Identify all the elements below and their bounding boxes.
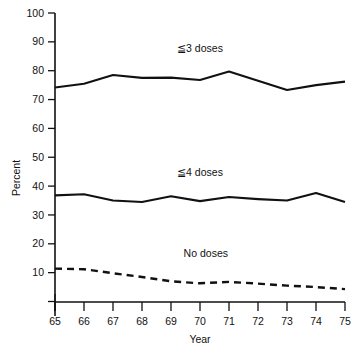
y-tick-label-90: 90 (32, 35, 44, 47)
x-tick-label-65: 65 (49, 315, 61, 327)
y-tick-label-50: 50 (32, 151, 44, 163)
y-tick-label-20: 20 (32, 237, 44, 249)
y-tick-label-80: 80 (32, 64, 44, 76)
x-tick-label-72: 72 (252, 315, 264, 327)
line-chart: 102030405060708090100 656667686970717273… (0, 0, 358, 354)
y-tick-label-40: 40 (32, 180, 44, 192)
y-axis-title: Percent (10, 160, 22, 196)
y-tick-label-30: 30 (32, 209, 44, 221)
x-tick-label-68: 68 (136, 315, 148, 327)
series-line-2 (55, 269, 345, 289)
x-tick-label-73: 73 (281, 315, 293, 327)
x-tick-label-75: 75 (339, 315, 351, 327)
y-tick-label-60: 60 (32, 122, 44, 134)
series-line-1 (55, 193, 345, 202)
x-axis-title: Year (189, 333, 211, 345)
series-line-0 (55, 72, 345, 90)
chart-container: 102030405060708090100 656667686970717273… (0, 0, 358, 354)
y-tick-label-100: 100 (26, 7, 44, 19)
y-axis-ticks: 102030405060708090100 (26, 7, 55, 302)
series-label-1: ≦4 doses (177, 166, 223, 178)
y-tick-label-70: 70 (32, 93, 44, 105)
series-label-0: ≦3 doses (177, 42, 223, 54)
x-tick-label-74: 74 (310, 315, 322, 327)
axes-group (55, 13, 345, 316)
x-tick-label-69: 69 (165, 315, 177, 327)
x-tick-label-70: 70 (194, 315, 206, 327)
series-label-2: No doses (184, 247, 228, 259)
x-tick-label-66: 66 (78, 315, 90, 327)
x-axis-ticks: 6566676869707172737475 (49, 294, 351, 327)
y-tick-label-10: 10 (32, 266, 44, 278)
x-tick-label-71: 71 (223, 315, 235, 327)
x-tick-label-67: 67 (107, 315, 119, 327)
